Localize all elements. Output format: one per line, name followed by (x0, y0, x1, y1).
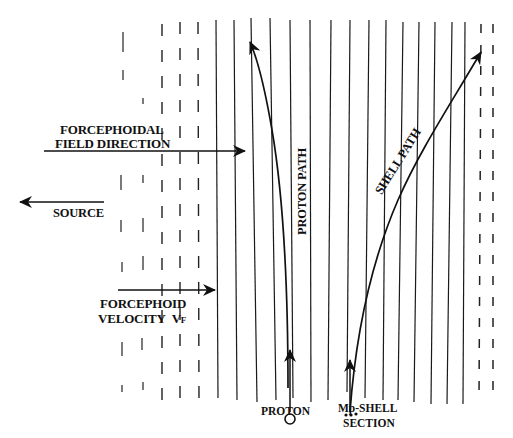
field-lines-dashed-right (479, 24, 493, 400)
shell-path-curve (350, 52, 481, 412)
velocity-label-line1: FORCEPHOID (100, 297, 186, 310)
velocity-symbol: V (172, 311, 181, 326)
source-label: SOURCE (53, 207, 104, 220)
field-lines-solid (216, 18, 465, 404)
field-lines-dashed-left (162, 22, 199, 404)
shell-section-label-line2: SECTION (343, 418, 395, 430)
proton-path-label: PROTON PATH (296, 148, 309, 235)
field-direction-label-line1: FORCEPHOIDAL (60, 123, 164, 136)
field-lines-sparse (121, 32, 143, 392)
velocity-label-line2: VELOCITY VF (98, 312, 186, 325)
proton-label: PROTON (261, 406, 310, 418)
field-direction-label-line2: FIELD DIRECTION (55, 137, 170, 150)
velocity-subscript: F (181, 315, 186, 325)
velocity-word: VELOCITY (98, 311, 166, 326)
shell-section-label-line1: Mp-SHELL (338, 403, 397, 415)
